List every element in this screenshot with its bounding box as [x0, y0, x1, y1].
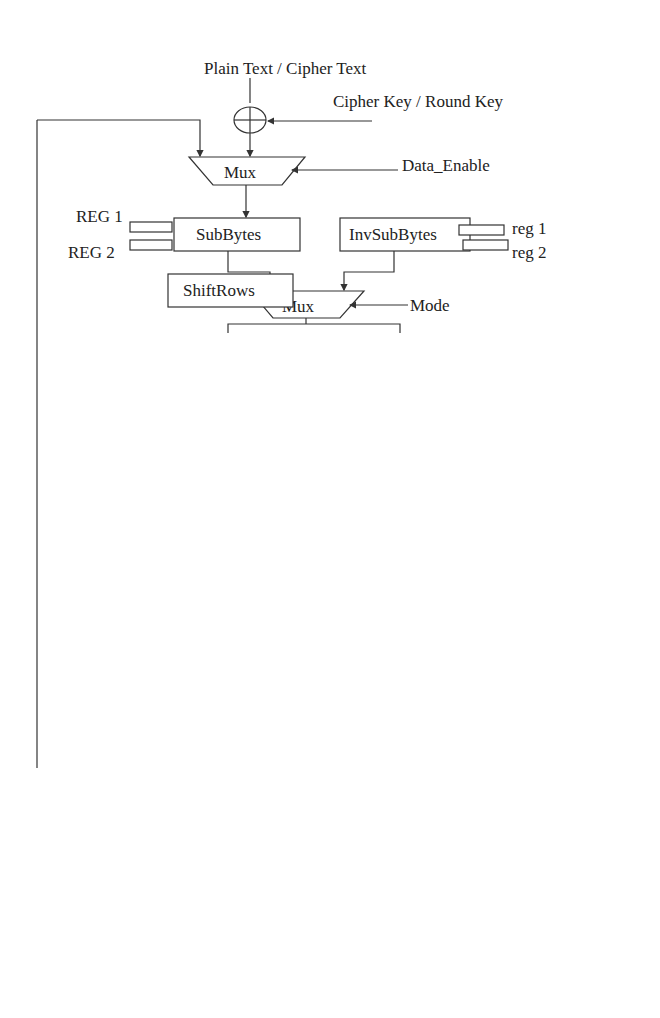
subbytes-block: SubBytes: [174, 218, 300, 251]
aes-datapath-diagram: Plain Text / Cipher Text Cipher Key / Ro…: [0, 0, 660, 1018]
reg1-left-box: [130, 222, 172, 232]
reg2-right-label: reg 2: [512, 243, 546, 262]
svg-text:SubBytes: SubBytes: [196, 225, 261, 244]
plain-cipher-text-label: Plain Text / Cipher Text: [204, 59, 367, 78]
mode-label-1: Mode: [410, 296, 450, 315]
mux-1: Mux: [189, 157, 305, 185]
invsubbytes-block: InvSubBytes: [340, 218, 470, 251]
reg2-right-box: [463, 240, 508, 250]
reg2-left-box: [130, 240, 172, 250]
reg1-right-box: [459, 225, 504, 235]
reg2-left-label: REG 2: [68, 243, 115, 262]
feedback-line-top: [37, 120, 200, 156]
cipher-round-key-label: Cipher Key / Round Key: [333, 92, 503, 111]
reg1-left-label: REG 1: [76, 207, 123, 226]
xor-input-icon: [234, 107, 266, 133]
data-enable-label: Data_Enable: [402, 156, 490, 175]
svg-text:InvSubBytes: InvSubBytes: [349, 225, 437, 244]
shift-rows: ShiftRows: [168, 274, 293, 307]
reg1-right-label: reg 1: [512, 219, 546, 238]
svg-text:ShiftRows: ShiftRows: [183, 281, 255, 300]
svg-text:Mux: Mux: [224, 163, 257, 182]
